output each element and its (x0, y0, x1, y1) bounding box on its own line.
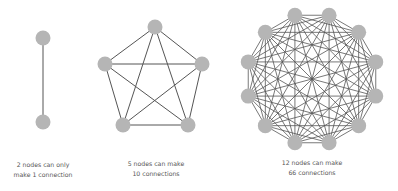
edge (248, 15, 295, 96)
two-node-graph (36, 31, 51, 130)
node (368, 54, 383, 69)
node (36, 31, 51, 46)
node (181, 118, 196, 133)
edge (123, 27, 155, 125)
node (258, 118, 273, 133)
edge (155, 27, 202, 64)
node (351, 118, 366, 133)
node (241, 54, 256, 69)
node (287, 8, 302, 23)
edge (155, 27, 188, 125)
node (148, 20, 163, 35)
edge (105, 64, 123, 125)
edge (105, 27, 155, 64)
five-node-graph (98, 20, 210, 133)
caption-line: 10 connections (96, 169, 216, 179)
node (98, 57, 113, 72)
node (36, 115, 51, 130)
node (322, 135, 337, 150)
node (368, 89, 383, 104)
node (195, 57, 210, 72)
node (241, 89, 256, 104)
twelve-node-graph (241, 8, 384, 151)
caption-line: 12 nodes can make (252, 158, 372, 168)
node (351, 25, 366, 40)
node (258, 25, 273, 40)
caption-line: make 1 connection (0, 170, 103, 180)
node (322, 8, 337, 23)
edge (105, 64, 188, 125)
node (116, 118, 131, 133)
caption-line: 2 nodes can only (0, 160, 103, 170)
caption-five-nodes: 5 nodes can make 10 connections (96, 159, 216, 179)
caption-twelve-nodes: 12 nodes can make 66 connections (252, 158, 372, 178)
node (287, 135, 302, 150)
caption-two-nodes: 2 nodes can only make 1 connection (0, 160, 103, 180)
caption-line: 5 nodes can make (96, 159, 216, 169)
caption-line: 66 connections (252, 168, 372, 178)
edge (295, 15, 376, 62)
